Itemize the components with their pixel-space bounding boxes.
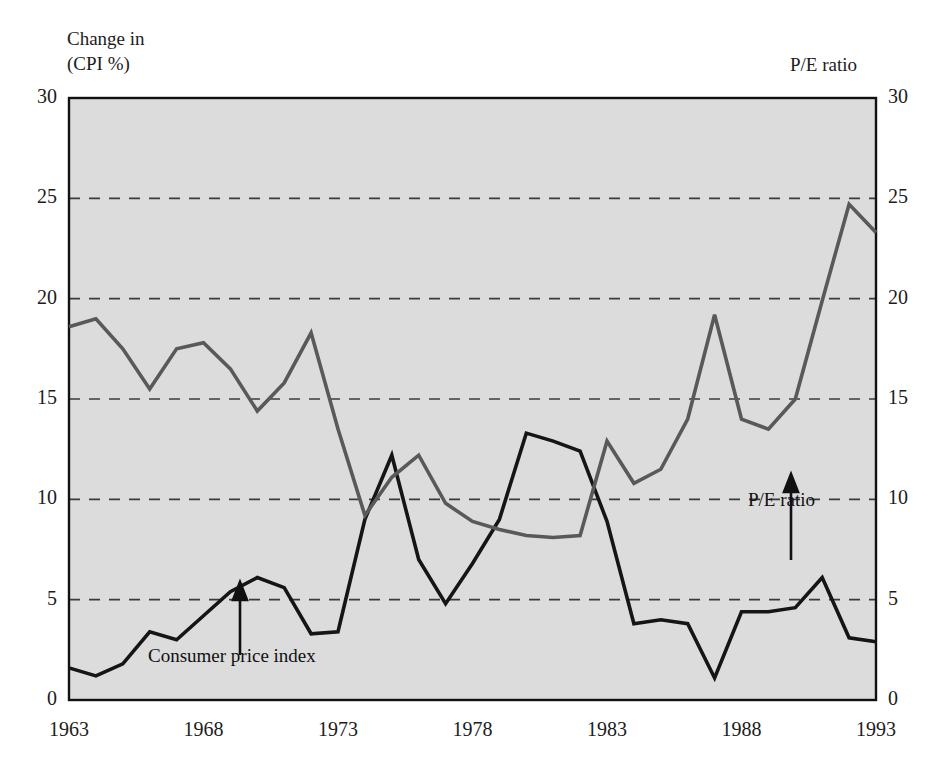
y-tick-right-15: 15 (888, 386, 934, 409)
y-tick-right-25: 25 (888, 185, 934, 208)
x-tick-1963: 1963 (24, 718, 114, 741)
annotation-pe-ratio: P/E ratio (748, 489, 815, 511)
x-tick-1983: 1983 (562, 718, 652, 741)
y-axis-right-title: P/E ratio (790, 52, 857, 77)
y-tick-right-30: 30 (888, 85, 934, 108)
annotation-consumer-price-index: Consumer price index (148, 645, 316, 667)
y-axis-left-title: Change in (CPI %) (67, 26, 145, 76)
y-tick-left-30: 30 (11, 85, 57, 108)
y-tick-left-20: 20 (11, 286, 57, 309)
chart-figure: Change in (CPI %) P/E ratio 302520151050… (0, 0, 935, 772)
y-tick-right-5: 5 (888, 587, 934, 610)
y-tick-left-0: 0 (11, 687, 57, 710)
y-tick-left-5: 5 (11, 587, 57, 610)
y-tick-right-10: 10 (888, 486, 934, 509)
y-tick-left-10: 10 (11, 486, 57, 509)
x-tick-1968: 1968 (159, 718, 249, 741)
x-tick-1993: 1993 (831, 718, 921, 741)
plot-canvas (0, 0, 935, 772)
x-tick-1973: 1973 (293, 718, 383, 741)
x-tick-1978: 1978 (428, 718, 518, 741)
x-tick-1988: 1988 (697, 718, 787, 741)
y-tick-right-20: 20 (888, 286, 934, 309)
y-tick-right-0: 0 (888, 687, 934, 710)
y-tick-left-25: 25 (11, 185, 57, 208)
y-tick-left-15: 15 (11, 386, 57, 409)
